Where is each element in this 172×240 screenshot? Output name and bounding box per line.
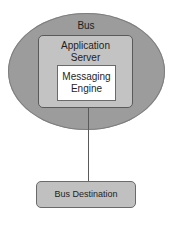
messaging-engine-label-line1: Messaging [57, 71, 116, 83]
bus-destination-label: Bus Destination [36, 189, 136, 200]
messaging-engine-label-line2: Engine [57, 83, 116, 95]
bus-label: Bus [0, 20, 172, 31]
application-server-label: Application Server [38, 40, 133, 64]
connector-line [88, 108, 89, 181]
application-server-label-line2: Server [38, 52, 133, 64]
application-server-label-line1: Application [38, 40, 133, 52]
messaging-engine-label: Messaging Engine [57, 71, 116, 95]
